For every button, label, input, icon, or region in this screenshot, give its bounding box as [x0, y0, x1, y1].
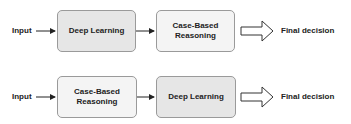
deep-learning-label: Deep Learning	[69, 26, 125, 36]
cbr-label-line1: Case-Based	[173, 21, 219, 30]
input-label-row1: Input	[12, 26, 32, 35]
cbr-label-line1: Case-Based	[74, 87, 120, 96]
cbr-label-line2: Reasoning	[175, 31, 216, 40]
hollow-arrow-icon-row2	[241, 87, 273, 107]
deep-learning-label: Deep Learning	[168, 92, 224, 102]
deep-learning-box-row2: Deep Learning	[156, 76, 236, 118]
deep-learning-box-row1: Deep Learning	[57, 10, 136, 52]
final-decision-label-row2: Final decision	[281, 92, 334, 101]
cbr-label-line2: Reasoning	[77, 97, 118, 106]
final-decision-label-row1: Final decision	[281, 26, 334, 35]
hollow-arrow-icon-row1	[241, 21, 273, 41]
input-label-row2: Input	[12, 92, 32, 101]
case-based-reasoning-box-row1: Case-Based Reasoning	[156, 10, 235, 52]
case-based-reasoning-box-row2: Case-Based Reasoning	[57, 76, 137, 118]
